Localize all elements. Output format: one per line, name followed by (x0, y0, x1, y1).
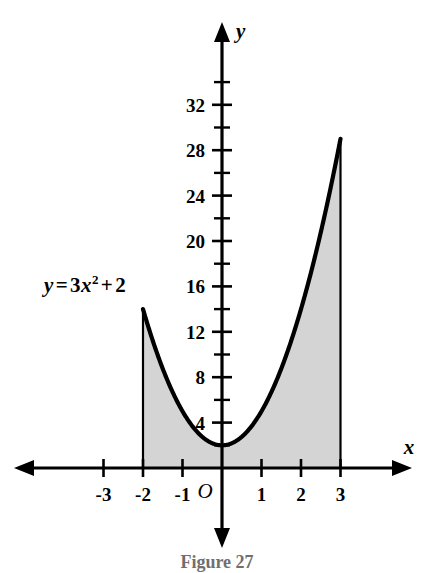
y-axis-arrow-up-icon (214, 22, 230, 42)
equation-lhs: y (44, 273, 54, 297)
origin-label: O (197, 479, 212, 503)
y-tick-label: 16 (186, 276, 205, 297)
y-axis-label: y (233, 19, 246, 43)
y-tick-label: 28 (186, 140, 205, 161)
x-tick-label: 3 (336, 484, 346, 505)
x-tick-label: 1 (257, 484, 267, 505)
y-tick-label: 32 (186, 95, 205, 116)
x-tick-label: 2 (296, 484, 306, 505)
x-tick-label: -1 (175, 484, 191, 505)
equation-exponent: 2 (92, 272, 99, 287)
x-axis-arrow-right-icon (392, 460, 412, 476)
y-axis-arrow-down-icon (214, 528, 230, 548)
equation-constant: 2 (115, 273, 126, 297)
x-axis-arrow-left-icon (14, 460, 34, 476)
equation-coefficient: 3 (70, 273, 81, 297)
y-tick-label: 20 (186, 231, 205, 252)
plot-group (143, 139, 341, 468)
x-tick-label: -2 (135, 484, 151, 505)
equation-variable: x (81, 273, 92, 297)
x-tick-label: -3 (96, 484, 112, 505)
x-axis-label: x (403, 435, 415, 459)
y-tick-label: 8 (196, 367, 206, 388)
equation-equals: = (54, 273, 70, 297)
equation-plus: + (99, 273, 115, 297)
figure-caption: Figure 27 (0, 552, 434, 573)
curve-equation-label: y=3x2+2 (44, 272, 126, 298)
y-tick-label: 12 (186, 322, 205, 343)
y-tick-label: 24 (186, 186, 206, 207)
shaded-area-under-curve (143, 139, 341, 468)
